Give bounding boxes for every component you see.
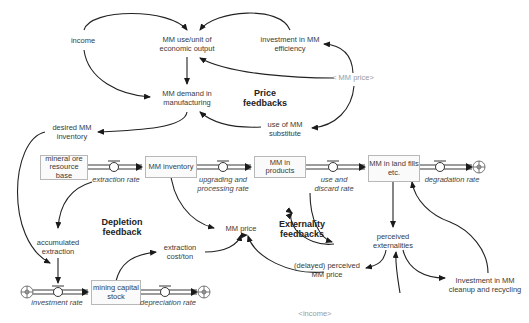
loop-label-depletion: Depletion feedback (97, 217, 147, 237)
cloud-sink-degradation-icon (473, 161, 485, 173)
var-cleanup-investment: Investment in MM cleanup and recycling (447, 277, 523, 294)
flow-extraction-rate: extraction rate (92, 176, 140, 185)
var-mm-price-shadow: < MM price> (332, 74, 374, 83)
var-mm-price: MM price (226, 225, 257, 234)
flow-depreciation-rate: depreciation rate (140, 299, 196, 308)
flow-investment-rate: investment rate (31, 299, 82, 308)
var-accumulated-extraction: accumulated extraction (36, 239, 80, 256)
flow-use-discard-rate: use and discard rate (308, 176, 360, 193)
valve-extraction-icon (108, 161, 120, 172)
var-investment-efficiency: investment in MM efficiency (259, 36, 321, 53)
flow-upgrading-rate: upgrading and processing rate (193, 176, 253, 193)
stock-mining-capital: mining capital stock (91, 280, 141, 305)
var-perceived-externalities: perceived externalities (371, 233, 415, 250)
valve-depreciation-icon (159, 286, 171, 297)
flow-degradation-rate: degradation rate (425, 176, 480, 185)
var-income-shadow: <income> (299, 310, 332, 319)
var-desired-inventory: desired MM inventory (52, 124, 92, 141)
valve-degradation-icon (434, 161, 446, 172)
stock-mm-inventory: MM inventory (145, 156, 197, 178)
valve-investment-icon (52, 286, 64, 297)
valve-upgrading-icon (217, 161, 229, 172)
stock-mineral-ore: mineral ore resource base (40, 155, 88, 180)
valve-use-discard-icon (327, 161, 339, 172)
loop-label-externality: Externality feedbacks (272, 219, 332, 239)
loop-label-price: Price feedbacks (240, 88, 290, 108)
stock-flow-diagram: mineral ore resource base MM inventory M… (0, 0, 529, 323)
cloud-sink-depreciation-icon (198, 286, 210, 298)
var-mm-demand: MM demand in manufacturing (157, 90, 217, 107)
stock-mm-in-landfills: MM in land fills etc. (368, 155, 420, 182)
stock-mm-in-products: MM in products (254, 156, 306, 178)
var-delayed-perceived-price: (delayed) perceived MM price (294, 262, 360, 279)
var-use-of-substitute: use of MM substitute (265, 121, 305, 138)
cloud-source-investment-icon (21, 286, 33, 298)
var-extraction-cost: extraction cost/ton (160, 244, 200, 261)
var-income: income (71, 37, 95, 46)
var-mm-use-per-unit: MM use/unit of economic output (157, 36, 217, 53)
